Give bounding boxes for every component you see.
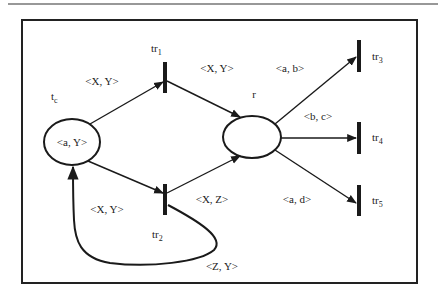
transition-label-tr5: tr5 bbox=[372, 194, 383, 209]
transition-label-tr1: tr1 bbox=[151, 42, 162, 57]
transition-tr2 bbox=[163, 184, 167, 215]
arc-tr2-r bbox=[167, 156, 240, 193]
petri-net-diagram: <a, Y> tc r tr1 tr2 tr3 tr4 tr5 <X, Y> <… bbox=[0, 0, 438, 301]
token-tc: <a, Y> bbox=[57, 136, 87, 148]
arc-label-tc-tr2: <X, Y> bbox=[90, 203, 123, 215]
arc-label-r-tr4: <b, c> bbox=[304, 110, 332, 122]
transition-label-tr3: tr3 bbox=[372, 50, 383, 65]
place-r bbox=[223, 116, 281, 158]
place-label-tc: tc bbox=[51, 90, 58, 105]
transition-tr5 bbox=[357, 185, 361, 216]
arc-tc-tr1 bbox=[90, 82, 163, 124]
transition-label-tr2: tr2 bbox=[152, 228, 163, 243]
arc-label-r-tr3: <a, b> bbox=[276, 62, 304, 74]
arc-tc-tr2 bbox=[88, 161, 163, 193]
arc-label-tr1-r: <X, Y> bbox=[200, 62, 233, 74]
arc-label-r-tr5: <a, d> bbox=[283, 193, 311, 205]
transition-tr3 bbox=[357, 40, 361, 72]
arc-tr2-tc-feedback bbox=[73, 167, 217, 265]
place-label-r: r bbox=[252, 88, 256, 100]
transition-tr1 bbox=[163, 62, 167, 93]
arc-label-tr2-r: <X, Z> bbox=[196, 193, 229, 205]
arc-label-tr2-tc: <Z, Y> bbox=[206, 260, 238, 272]
transition-tr4 bbox=[357, 122, 361, 154]
transition-label-tr4: tr4 bbox=[372, 131, 383, 146]
arc-label-tc-tr1: <X, Y> bbox=[85, 75, 118, 87]
arc-tr1-r bbox=[167, 81, 240, 117]
